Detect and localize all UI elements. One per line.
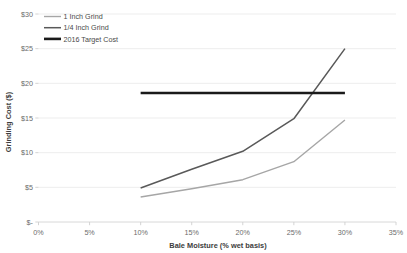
y-tick-label: $5 xyxy=(25,183,33,192)
line-chart: 0%5%10%15%20%25%30%35% $-$5$10$15$20$25$… xyxy=(0,0,407,253)
x-tick-labels: 0%5%10%15%20%25%30%35% xyxy=(33,228,403,237)
x-tick-label: 20% xyxy=(236,228,251,237)
x-tick-label: 25% xyxy=(287,228,302,237)
y-tick-labels: $-$5$10$15$20$25$30 xyxy=(21,10,34,227)
data-series-group xyxy=(141,49,345,197)
y-tick-label: $15 xyxy=(21,114,33,123)
series-line xyxy=(141,120,345,197)
x-axis-title: Bale Moisture (% wet basis) xyxy=(169,241,267,250)
x-tick-label: 15% xyxy=(185,228,200,237)
y-axis-title: Grinding Cost ($) xyxy=(4,91,13,152)
x-tick-label: 0% xyxy=(33,228,44,237)
y-tick-label: $10 xyxy=(21,148,33,157)
y-tick-label: $30 xyxy=(21,10,33,19)
axes xyxy=(35,14,396,225)
legend-label: 1/4 Inch Grind xyxy=(64,23,109,32)
x-tick-label: 30% xyxy=(338,228,353,237)
x-tick-label: 5% xyxy=(84,228,95,237)
legend-label: 2016 Target Cost xyxy=(64,35,119,44)
chart-container: 0%5%10%15%20%25%30%35% $-$5$10$15$20$25$… xyxy=(0,0,407,253)
y-tick-label: $25 xyxy=(21,44,33,53)
legend: 1 Inch Grind1/4 Inch Grind2016 Target Co… xyxy=(44,12,118,43)
x-tick-label: 35% xyxy=(389,228,404,237)
y-tick-label: $- xyxy=(27,218,34,227)
x-tick-label: 10% xyxy=(133,228,148,237)
legend-label: 1 Inch Grind xyxy=(64,12,103,21)
y-tick-label: $20 xyxy=(21,79,33,88)
